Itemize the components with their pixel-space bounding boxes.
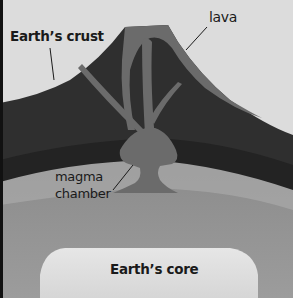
magma-chamber-label: magma chamber bbox=[55, 168, 111, 202]
magma-chamber-label-line1: magma bbox=[55, 168, 111, 185]
lava-label: lava bbox=[209, 9, 237, 25]
volcano-diagram: Earth’s crust lava magma chamber Earth’s… bbox=[0, 0, 293, 298]
volcano-illustration bbox=[0, 0, 293, 298]
earth-crust-label: Earth’s crust bbox=[10, 28, 104, 44]
earth-core-label: Earth’s core bbox=[110, 261, 198, 277]
left-border bbox=[0, 0, 3, 298]
magma-chamber-label-line2: chamber bbox=[55, 185, 111, 202]
